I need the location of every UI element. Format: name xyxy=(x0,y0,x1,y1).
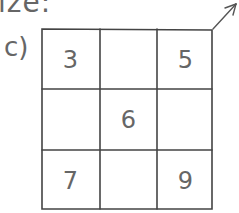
problem-label: c) xyxy=(4,32,28,62)
arrow-up-right-icon xyxy=(205,0,239,36)
grid-cell-r2c3 xyxy=(157,89,214,150)
partial-heading-text: ize: xyxy=(0,0,51,19)
grid-cell-r1c3: 5 xyxy=(157,29,214,90)
grid-cell-r3c1: 7 xyxy=(42,150,99,211)
grid-cell-r2c2: 6 xyxy=(100,89,157,150)
number-grid: 3 5 6 7 9 xyxy=(41,28,213,210)
grid-cell-r3c3: 9 xyxy=(157,150,214,211)
grid-cell-r1c2 xyxy=(100,29,157,90)
grid-cell-r2c1 xyxy=(42,89,99,150)
grid-cell-r3c2 xyxy=(100,150,157,211)
grid-cell-r1c1: 3 xyxy=(42,29,99,90)
